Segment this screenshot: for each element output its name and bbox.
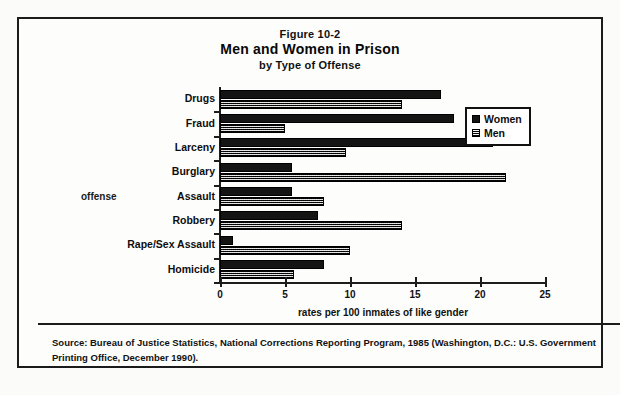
y-axis-title: offense	[81, 191, 117, 202]
bar-women-assault	[220, 187, 292, 196]
x-axis-tick-label: 10	[344, 289, 355, 300]
x-axis-tick-label: 15	[409, 289, 420, 300]
category-label: Robbery	[172, 215, 215, 226]
y-axis-tick	[214, 160, 221, 162]
source-note: Source: Bureau of Justice Statistics, Na…	[52, 335, 608, 365]
figure-number: Figure 10-2	[19, 27, 601, 41]
bar-men-fraud	[220, 124, 285, 133]
y-axis-tick	[214, 258, 221, 260]
category-label: Assault	[177, 191, 215, 202]
x-axis-tick-label: 5	[282, 289, 288, 300]
y-axis-tick	[214, 233, 221, 235]
y-axis-tick	[214, 209, 221, 211]
legend-item-label: Women	[484, 113, 522, 125]
bar-men-burglary	[220, 173, 506, 182]
x-axis-tick-label: 0	[217, 289, 223, 300]
bar-women-rape-sex-assault	[220, 236, 233, 245]
bar-women-homicide	[220, 260, 324, 269]
chart-legend: WomenMen	[465, 107, 531, 146]
legend-item-women: Women	[472, 112, 522, 126]
legend-item-label: Men	[484, 127, 505, 139]
bar-women-burglary	[220, 163, 292, 172]
legend-item-men: Men	[472, 126, 522, 140]
x-axis-tick-label: 25	[539, 289, 550, 300]
y-axis-tick	[214, 282, 221, 284]
figure-title-block: Figure 10-2 Men and Women in Prison by T…	[19, 27, 601, 73]
category-label: Homicide	[168, 264, 215, 275]
category-label: Rape/Sex Assault	[127, 239, 215, 250]
category-label: Drugs	[185, 93, 215, 104]
figure-frame: Figure 10-2 Men and Women in Prison by T…	[17, 17, 603, 368]
y-axis-tick	[214, 185, 221, 187]
x-axis-tick	[415, 277, 417, 287]
x-axis-tick	[350, 277, 352, 287]
footer-divider	[38, 323, 620, 325]
category-label: Larceny	[175, 142, 215, 153]
bar-women-robbery	[220, 211, 318, 220]
category-label: Fraud	[186, 118, 215, 129]
category-axis-labels: DrugsFraudLarcenyBurglaryAssaultRobberyR…	[29, 87, 215, 283]
bar-women-larceny	[220, 138, 493, 147]
bar-men-rape-sex-assault	[220, 246, 350, 255]
x-axis-tick-label: 20	[474, 289, 485, 300]
scanned-page: Figure 10-2 Men and Women in Prison by T…	[0, 0, 620, 395]
bar-men-drugs	[220, 100, 402, 109]
y-axis-tick	[214, 136, 221, 138]
bar-men-homicide	[220, 270, 294, 279]
x-axis-line	[220, 282, 546, 284]
x-axis-tick	[545, 277, 547, 287]
figure-subtitle: by Type of Offense	[19, 58, 601, 73]
x-axis-tick	[285, 277, 287, 287]
x-axis-tick	[480, 277, 482, 287]
bar-men-assault	[220, 197, 324, 206]
figure-title: Men and Women in Prison	[19, 41, 601, 58]
solid-black-swatch	[472, 115, 480, 123]
x-axis-title: rates per 100 inmates of like gender	[220, 307, 546, 318]
y-axis-tick	[214, 111, 221, 113]
bar-women-drugs	[220, 90, 441, 99]
hatched-gray-swatch	[472, 129, 480, 137]
category-label: Burglary	[172, 166, 215, 177]
bar-men-robbery	[220, 221, 402, 230]
bar-women-fraud	[220, 114, 454, 123]
bar-men-larceny	[220, 148, 346, 157]
